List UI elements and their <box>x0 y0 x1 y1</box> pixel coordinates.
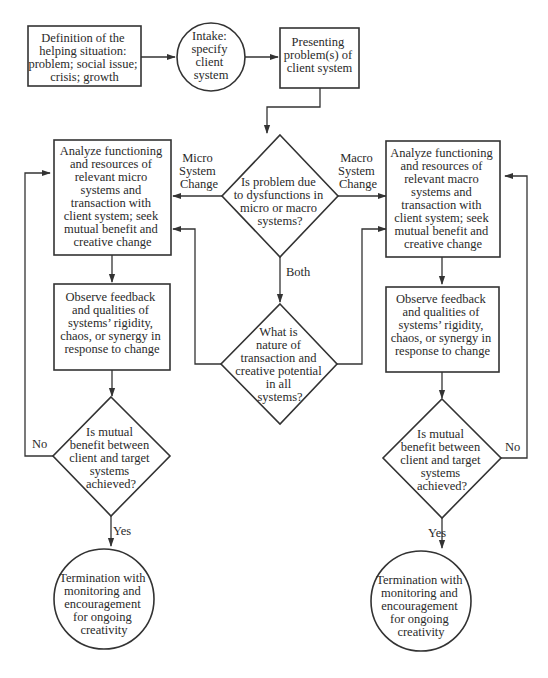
no-left-label: No <box>32 437 47 451</box>
definition-box: Definition of the helping situation: pro… <box>28 26 141 86</box>
no-right-label: No <box>505 440 520 454</box>
observe-macro-box: Observe feedback and qualities of system… <box>386 287 499 372</box>
micro-system-change-label: Micro System Change <box>179 151 219 191</box>
macro-system-change-label: Macro System Change <box>338 151 378 191</box>
edge-presenting-to-decision <box>267 88 320 133</box>
both-label: Both <box>286 265 311 279</box>
edge-mutual-macro-no-loop <box>501 176 527 458</box>
intake-text: Intake: specify client system <box>191 29 230 82</box>
mutual-macro-diamond: Is mutual benefit between client and tar… <box>383 399 501 518</box>
observe-macro-text: Observe feedback and qualities of system… <box>391 292 495 358</box>
edge-nature-to-micro <box>173 229 221 364</box>
flowchart: Definition of the helping situation: pro… <box>0 0 548 678</box>
analyze-micro-text: Analyze functioning and resources of rel… <box>60 144 166 249</box>
edge-mutual-micro-no-loop <box>25 173 53 456</box>
analyze-macro-box: Analyze functioning and resources of rel… <box>386 141 500 257</box>
mutual-micro-diamond: Is mutual benefit between client and tar… <box>53 397 170 516</box>
yes-left-label: Yes <box>113 524 131 538</box>
edge-nature-to-macro <box>337 229 386 364</box>
nature-transaction-diamond: What is nature of transaction and creati… <box>221 304 337 424</box>
presenting-box: Presenting problem(s) of client system <box>280 28 359 88</box>
presenting-text: Presenting problem(s) of client system <box>284 35 356 75</box>
analyze-micro-box: Analyze functioning and resources of rel… <box>54 140 171 255</box>
termination-micro-circle: Termination with monitoring and encourag… <box>54 549 154 649</box>
analyze-macro-text: Analyze functioning and resources of rel… <box>390 146 496 251</box>
yes-right-label: Yes <box>428 526 446 540</box>
observe-micro-text: Observe feedback and qualities of system… <box>60 290 164 356</box>
decision-micro-macro-diamond: Is problem due to dysfunctions in micro … <box>222 135 338 257</box>
observe-micro-box: Observe feedback and qualities of system… <box>54 284 170 370</box>
intake-circle: Intake: specify client system <box>177 23 245 91</box>
termination-macro-circle: Termination with monitoring and encourag… <box>371 551 471 651</box>
